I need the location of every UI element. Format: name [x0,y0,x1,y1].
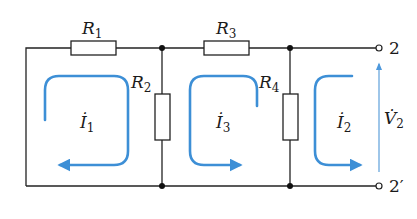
terminal-2-prime [376,183,382,189]
label-r1: R1 [81,18,102,41]
junction-node [287,183,293,189]
label-r4: R4 [258,72,280,95]
terminal-2-prime-label: 2′ [389,176,404,196]
label-r3: R3 [215,18,236,41]
terminal-2-label: 2 [389,38,400,58]
terminal-2 [376,45,382,51]
resistor-r2 [155,94,170,140]
resistor-r4 [283,94,298,140]
junction-node [159,45,165,51]
label-i2: İ2 [336,112,351,135]
resistor-r1 [71,41,116,55]
label-r2: R2 [130,72,151,95]
resistor-r3 [204,41,249,55]
circuit-diagram: 2 2′ R1 R3 R2 R4 İ1 İ3 İ2 V̇2 [0,0,417,219]
label-i3: İ3 [215,112,230,135]
junction-node [287,45,293,51]
label-i1: İ1 [79,112,94,135]
junction-node [159,183,165,189]
label-v2: V̇2 [384,108,404,131]
